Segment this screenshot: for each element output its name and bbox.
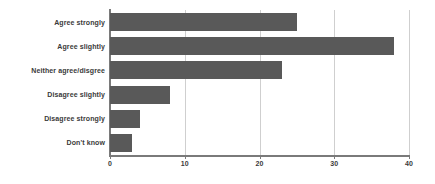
x-tick-mark xyxy=(185,155,186,159)
category-label: Disagree slightly xyxy=(0,90,105,99)
gridline-20 xyxy=(260,10,261,155)
x-tick-label: 30 xyxy=(330,160,338,167)
bar-chart: Agree stronglyAgree slightlyNeither agre… xyxy=(0,0,435,184)
bar xyxy=(110,134,132,152)
x-tick-mark xyxy=(334,155,335,159)
x-tick-label: 10 xyxy=(181,160,189,167)
plot-area xyxy=(110,10,409,155)
category-label: Disagree strongly xyxy=(0,114,105,123)
bar xyxy=(110,61,282,79)
bar xyxy=(110,37,394,55)
x-tick-mark xyxy=(110,155,111,159)
category-axis-labels: Agree stronglyAgree slightlyNeither agre… xyxy=(0,0,105,184)
x-tick-label: 0 xyxy=(108,160,112,167)
category-label: Agree slightly xyxy=(0,42,105,51)
x-tick-mark xyxy=(260,155,261,159)
gridline-40 xyxy=(409,10,410,155)
category-label: Neither agree/disgree xyxy=(0,66,105,75)
x-tick-mark xyxy=(409,155,410,159)
bar xyxy=(110,110,140,128)
category-label: Don't know xyxy=(0,138,105,147)
bar xyxy=(110,13,297,31)
gridline-10 xyxy=(185,10,186,155)
x-tick-label: 40 xyxy=(405,160,413,167)
x-axis-tick-labels: 010203040 xyxy=(110,160,409,174)
category-label: Agree strongly xyxy=(0,18,105,27)
gridline-30 xyxy=(334,10,335,155)
x-tick-label: 20 xyxy=(256,160,264,167)
bar xyxy=(110,86,170,104)
